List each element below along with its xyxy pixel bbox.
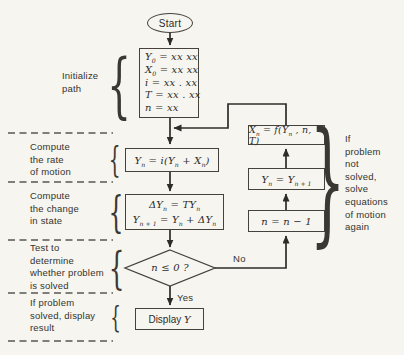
display-label: Display Y (148, 314, 190, 325)
annotation-rate: Compute the rate of motion (30, 141, 71, 179)
no-edge-label: No (233, 253, 246, 264)
n-decrement-equation: n = n − 1 (261, 216, 312, 227)
annotation-loop: If problem not solved, solve equations o… (345, 133, 388, 234)
connector-decision-no (215, 236, 286, 268)
display-box: Display Y (135, 308, 204, 330)
change-equation-2: Yn + 1 = Yn + ΔYn (133, 212, 217, 227)
start-terminal: Start (147, 13, 193, 33)
init-line-1: Y0 = xx xx (145, 51, 198, 64)
annotation-initialize: Initialize path (62, 70, 98, 95)
rate-box: Yn = i(Yn + Xn) (125, 148, 219, 172)
rate-equation: Yn = i(Yn + Xn) (134, 155, 209, 166)
yn-equation: Yn = Yn + 1 (262, 174, 312, 185)
figure-flowchart: Start Y0 = xx xx X0 = xx xx i = xx . xx … (0, 0, 404, 355)
annotation-result: If problem solved, display result (30, 297, 95, 335)
decision-label: n ≤ 0 ? (135, 262, 205, 273)
start-label: Start (159, 18, 182, 29)
brace-icon: { (109, 50, 129, 118)
init-line-2: X0 = xx xx (145, 64, 198, 77)
init-line-4: T = xx . xx (145, 89, 201, 102)
brace-icon: { (107, 143, 123, 177)
change-equation-1: ΔYn = TYn (149, 197, 200, 212)
init-box: Y0 = xx xx X0 = xx xx i = xx . xx T = xx… (139, 48, 199, 118)
annotation-change: Compute the change in state (30, 190, 79, 228)
brace-icon: } (318, 117, 338, 245)
yes-edge-label: Yes (177, 292, 193, 303)
brace-icon: { (108, 301, 124, 331)
change-box: ΔYn = TYn Yn + 1 = Yn + ΔYn (125, 194, 224, 230)
init-line-3: i = xx . xx (145, 77, 197, 90)
brace-icon: { (109, 246, 125, 290)
brace-icon: { (108, 191, 124, 233)
annotation-test: Test to determine whether problem is sol… (30, 242, 104, 292)
init-line-5: n = xx (145, 102, 179, 115)
